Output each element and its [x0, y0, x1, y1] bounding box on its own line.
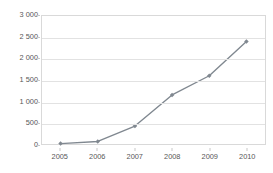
y-tick-mark — [36, 15, 40, 16]
x-tick-label: 2005 — [52, 152, 68, 161]
x-tick-mark — [172, 148, 173, 151]
y-axis: 05001 0001 5002 0002 5003 000 — [0, 15, 38, 145]
x-tick-mark — [209, 148, 210, 151]
x-tick-label: 2009 — [202, 152, 218, 161]
gridline — [42, 59, 265, 60]
y-tick-mark — [36, 80, 40, 81]
x-tick-mark — [247, 148, 248, 151]
y-tick-mark — [36, 102, 40, 103]
y-tick-label: 0 — [2, 141, 38, 149]
x-tick-mark — [97, 148, 98, 151]
line-chart: 05001 0001 5002 0002 5003 000 2005200620… — [0, 0, 273, 173]
series-line — [61, 42, 247, 144]
y-tick-mark — [36, 37, 40, 38]
y-tick-mark — [36, 123, 40, 124]
y-tick-label: 500 — [2, 119, 38, 127]
x-tick-mark — [134, 148, 135, 151]
data-point-marker — [95, 139, 100, 144]
x-tick-label: 2007 — [127, 152, 143, 161]
y-tick-label: 2 500 — [2, 33, 38, 41]
y-tick-mark — [36, 145, 40, 146]
gridline — [42, 81, 265, 82]
plot-area — [41, 15, 266, 145]
x-axis: 200520062007200820092010 — [41, 148, 266, 162]
y-tick-label: 1 000 — [2, 98, 38, 106]
x-tick-label: 2006 — [89, 152, 105, 161]
y-tick-label: 3 000 — [2, 11, 38, 19]
gridline — [42, 103, 265, 104]
y-tick-label: 1 500 — [2, 76, 38, 84]
gridline — [42, 38, 265, 39]
x-tick-mark — [59, 148, 60, 151]
gridline — [42, 124, 265, 125]
x-tick-label: 2010 — [239, 152, 255, 161]
y-tick-mark — [36, 58, 40, 59]
x-tick-label: 2008 — [164, 152, 180, 161]
data-point-marker — [58, 141, 63, 146]
y-tick-label: 2 000 — [2, 54, 38, 62]
